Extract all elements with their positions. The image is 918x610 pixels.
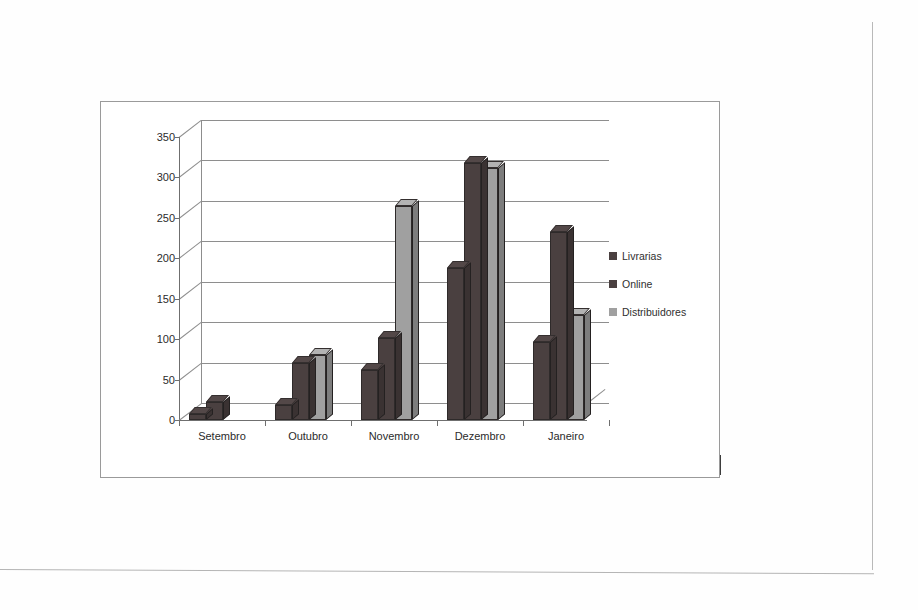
bar-side-face <box>412 200 419 420</box>
x-axis-tick-labels: SetembroOutubroNovembroDezembroJaneiro <box>179 430 609 450</box>
x-axis-label: Novembro <box>369 430 420 442</box>
bars-layer <box>179 120 609 420</box>
y-axis-label: 0 <box>141 415 175 426</box>
bar-front-face <box>189 414 206 420</box>
x-axis-tick <box>265 420 266 426</box>
bar-side-face <box>326 349 333 420</box>
bar <box>189 414 206 420</box>
chart-legend: LivrariasOnlineDistribuidores <box>609 250 717 334</box>
bar <box>533 342 550 420</box>
legend-item: Online <box>609 278 717 290</box>
y-axis-label: 300 <box>141 172 175 183</box>
y-axis-label: 250 <box>141 212 175 223</box>
x-axis-label: Dezembro <box>455 430 506 442</box>
legend-label: Livrarias <box>622 250 662 262</box>
x-axis-label: Setembro <box>198 430 246 442</box>
x-axis-label: Outubro <box>288 430 328 442</box>
x-axis-tick <box>437 420 438 426</box>
bar-side-face <box>395 332 402 420</box>
bar-side-face <box>584 309 591 420</box>
x-axis-tick <box>609 420 610 426</box>
chart-object-frame: 050100150200250300350 SetembroOutubroNov… <box>100 101 720 478</box>
plot-area: 050100150200250300350 SetembroOutubroNov… <box>179 120 609 420</box>
bar-front-face <box>361 370 378 420</box>
bar-front-face <box>447 268 464 420</box>
y-axis-label: 200 <box>141 253 175 264</box>
bar-side-face <box>378 364 385 420</box>
bar-side-face <box>464 262 471 420</box>
y-axis-label: 50 <box>141 374 175 385</box>
page-edge-line-bottom <box>0 569 874 574</box>
legend-swatch-icon <box>609 308 617 316</box>
legend-item: Distribuidores <box>609 306 717 318</box>
y-axis-tick-labels: 050100150200250300350 <box>135 120 175 420</box>
bar-front-face <box>533 342 550 420</box>
legend-label: Distribuidores <box>622 306 686 318</box>
x-axis-tick <box>351 420 352 426</box>
legend-swatch-icon <box>609 252 617 260</box>
bar-side-face <box>550 336 557 420</box>
y-axis-label: 150 <box>141 293 175 304</box>
x-axis-label: Janeiro <box>548 430 584 442</box>
legend-swatch-icon <box>609 280 617 288</box>
bar <box>275 405 292 420</box>
x-axis-line <box>179 420 587 421</box>
page-edge-line-right <box>872 22 873 570</box>
bar-front-face <box>275 405 292 420</box>
legend-item: Livrarias <box>609 250 717 262</box>
bar-side-face <box>309 358 316 420</box>
bar-side-face <box>567 227 574 420</box>
x-axis-tick <box>523 420 524 426</box>
scanned-page: 050100150200250300350 SetembroOutubroNov… <box>0 0 918 610</box>
x-axis-tick <box>179 420 180 426</box>
bar-side-face <box>481 157 488 420</box>
y-axis-label: 350 <box>141 132 175 143</box>
legend-label: Online <box>622 278 652 290</box>
bar-side-face <box>498 162 505 420</box>
bar <box>361 370 378 420</box>
y-axis-label: 100 <box>141 334 175 345</box>
bar <box>447 268 464 420</box>
